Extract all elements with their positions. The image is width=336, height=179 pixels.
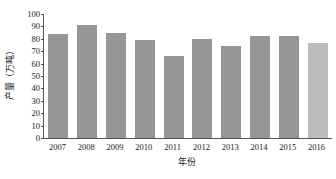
- y-axis-tick-mark: [41, 76, 44, 77]
- bar[interactable]: [192, 39, 212, 138]
- x-axis-tick-label: 2008: [72, 141, 101, 155]
- y-axis-tick-label: 100: [16, 10, 40, 19]
- y-axis-tick-mark: [41, 138, 44, 139]
- y-axis-tick-label: 40: [16, 84, 40, 93]
- y-axis-tick-mark: [41, 14, 44, 15]
- bar[interactable]: [164, 56, 184, 138]
- bar-slot: [44, 14, 73, 138]
- bar-slot: [217, 14, 246, 138]
- y-axis-tick-mark: [41, 101, 44, 102]
- x-axis-tick-label: 2009: [101, 141, 130, 155]
- bar[interactable]: [250, 36, 270, 138]
- y-axis-tick-mark: [41, 64, 44, 65]
- x-axis-title: 年份: [43, 155, 331, 168]
- bar[interactable]: [221, 46, 241, 138]
- plot-area: [43, 14, 332, 139]
- y-axis-tick-label: 10: [16, 121, 40, 130]
- y-axis-title-text: 产量（万吨）: [3, 46, 16, 100]
- bar[interactable]: [135, 40, 155, 138]
- bar-chart-figure: 产量（万吨） 1009080706050403020100 2007200820…: [0, 0, 336, 179]
- x-axis-tick-label: 2015: [273, 141, 302, 155]
- x-axis-tick-labels: 2007200820092010201120122013201420152016: [43, 141, 331, 155]
- bar-series: [44, 14, 332, 138]
- bar-slot: [303, 14, 332, 138]
- bar-slot: [130, 14, 159, 138]
- x-axis-tick-label: 2007: [43, 141, 72, 155]
- y-axis-tick-labels: 1009080706050403020100: [16, 8, 40, 138]
- bar[interactable]: [279, 36, 299, 138]
- bar[interactable]: [77, 25, 97, 138]
- x-axis-tick-label: 2010: [129, 141, 158, 155]
- y-axis-tick-mark: [41, 113, 44, 114]
- bar[interactable]: [106, 33, 126, 138]
- y-axis-tick-mark: [41, 26, 44, 27]
- bar[interactable]: [48, 34, 68, 138]
- y-axis-tick-label: 80: [16, 34, 40, 43]
- bar-slot: [73, 14, 102, 138]
- y-axis-tick-label: 50: [16, 72, 40, 81]
- bar-slot: [274, 14, 303, 138]
- y-axis-tick-mark: [41, 88, 44, 89]
- x-axis-tick-label: 2011: [158, 141, 187, 155]
- x-axis-tick-label: 2012: [187, 141, 216, 155]
- bar[interactable]: [308, 43, 328, 138]
- y-axis-tick-label: 20: [16, 109, 40, 118]
- y-axis-tick-label: 70: [16, 47, 40, 56]
- x-axis-tick-label: 2016: [302, 141, 331, 155]
- y-axis-tick-label: 60: [16, 59, 40, 68]
- bar-slot: [188, 14, 217, 138]
- bar-slot: [102, 14, 131, 138]
- y-axis-tick-mark: [41, 51, 44, 52]
- y-axis-tick-label: 90: [16, 22, 40, 31]
- y-axis-tick-label: 30: [16, 96, 40, 105]
- bar-slot: [159, 14, 188, 138]
- bar-slot: [246, 14, 275, 138]
- y-axis-tick-mark: [41, 39, 44, 40]
- y-axis-tick-label: 0: [16, 134, 40, 143]
- x-axis-tick-label: 2014: [245, 141, 274, 155]
- y-axis-tick-mark: [41, 126, 44, 127]
- x-axis-tick-label: 2013: [216, 141, 245, 155]
